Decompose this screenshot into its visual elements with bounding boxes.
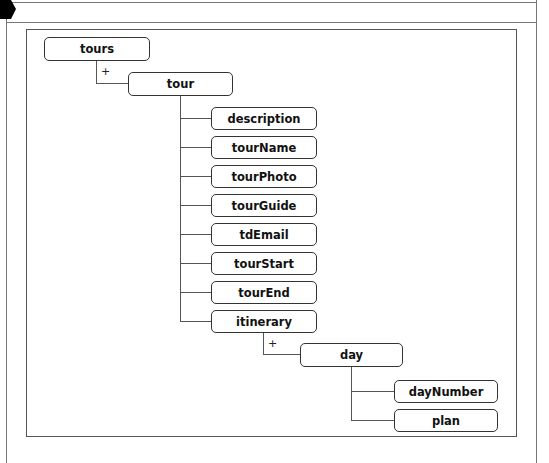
connector-itinerary	[180, 321, 211, 322]
node-tour[interactable]: tour	[128, 72, 233, 96]
node-tours[interactable]: tours	[44, 37, 150, 61]
connector-tdEmail	[180, 234, 211, 235]
node-tourGuide[interactable]: tourGuide	[211, 194, 317, 217]
multiplicity-marker-tours: +	[101, 66, 110, 77]
connector-itinerary-day	[263, 354, 300, 355]
connector-tourName	[180, 147, 211, 148]
node-tourPhoto[interactable]: tourPhoto	[211, 165, 317, 188]
connector-tourPhoto	[180, 176, 211, 177]
connector-tourEnd	[180, 292, 211, 293]
node-itinerary[interactable]: itinerary	[211, 310, 317, 333]
outer-right-border	[536, 0, 537, 463]
connector-tours-down	[96, 60, 97, 84]
node-tourName[interactable]: tourName	[211, 136, 317, 159]
connector-dayNumber	[351, 391, 394, 392]
connector-plan	[351, 420, 394, 421]
connector-day-trunk	[351, 366, 352, 421]
node-dayNumber[interactable]: dayNumber	[394, 380, 498, 403]
connector-itinerary-down	[263, 333, 264, 355]
node-tourStart[interactable]: tourStart	[211, 252, 317, 275]
node-tourEnd[interactable]: tourEnd	[211, 281, 317, 304]
node-tdEmail[interactable]: tdEmail	[211, 223, 317, 246]
header-divider-line	[7, 22, 537, 23]
multiplicity-marker-itinerary: +	[268, 338, 277, 349]
node-description[interactable]: description	[211, 107, 317, 130]
connector-description	[180, 118, 211, 119]
connector-tourStart	[180, 263, 211, 264]
node-day[interactable]: day	[300, 343, 403, 367]
top-border-line	[0, 2, 537, 3]
connector-tour-trunk	[180, 95, 181, 322]
outer-left-border	[6, 18, 7, 463]
node-plan[interactable]: plan	[394, 409, 498, 432]
connector-tourGuide	[180, 205, 211, 206]
connector-tours-tour	[96, 83, 128, 84]
pointer-marker-icon	[0, 0, 17, 20]
